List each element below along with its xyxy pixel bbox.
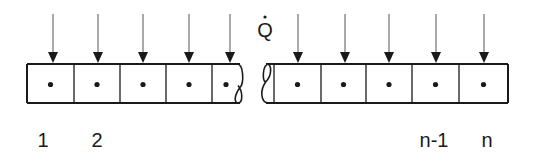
node-point xyxy=(48,82,53,87)
break-symbol-right xyxy=(262,64,271,103)
heat-rate-symbol: Q xyxy=(257,15,273,41)
node-point xyxy=(94,82,99,87)
node-point xyxy=(433,82,438,87)
break-symbol-left xyxy=(235,64,242,103)
node-index-labels: 1 2 n-1 n xyxy=(37,129,492,151)
node-point xyxy=(481,82,486,87)
heat-arrow-head xyxy=(138,52,148,63)
node-point xyxy=(186,82,191,87)
heat-arrow-head xyxy=(340,52,350,63)
node-label-2: 2 xyxy=(91,129,102,151)
node-label-n: n xyxy=(481,129,492,151)
node-point xyxy=(295,82,300,87)
node-label-1: 1 xyxy=(37,129,48,151)
node-point xyxy=(386,82,391,87)
heat-rate-label: Q xyxy=(257,19,273,41)
heat-arrow-head xyxy=(48,52,58,63)
rod-discretization-diagram: Q 1 2 n-1 n xyxy=(0,0,536,159)
heat-arrow-head xyxy=(431,52,441,63)
right-rod-segment xyxy=(262,64,508,103)
left-rod-segment xyxy=(27,64,243,103)
heat-arrow-head xyxy=(293,52,303,63)
heat-arrow-head xyxy=(384,52,394,63)
heat-arrow-head xyxy=(184,52,194,63)
node-label-n-minus-1: n-1 xyxy=(420,129,449,151)
heat-arrow-head xyxy=(93,52,103,63)
node-point xyxy=(140,82,145,87)
node-point xyxy=(341,82,346,87)
diagram-canvas: Q 1 2 n-1 n xyxy=(0,0,536,159)
heat-arrow-head xyxy=(225,52,235,63)
node-point xyxy=(223,82,228,87)
heat-arrow-head xyxy=(479,52,489,63)
